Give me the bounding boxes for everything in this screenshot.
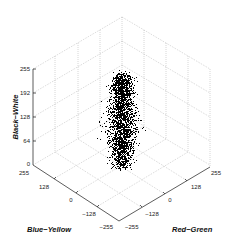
scatter-points <box>0 0 234 244</box>
